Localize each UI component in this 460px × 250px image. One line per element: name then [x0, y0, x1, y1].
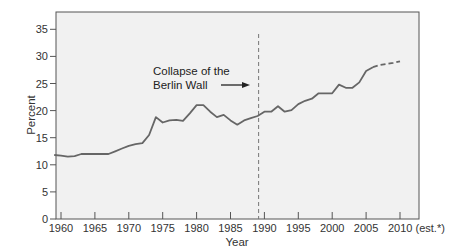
y-tick-label: 25: [36, 78, 48, 90]
y-tick-label: 10: [36, 159, 48, 171]
x-tick-label: 2000: [320, 222, 344, 234]
x-axis-title: Year: [225, 236, 248, 248]
y-tick-label: 15: [36, 132, 48, 144]
plot-area: [56, 12, 419, 219]
x-tick-label: 1990: [252, 222, 276, 234]
x-tick-label: 1980: [184, 222, 208, 234]
x-tick-label: 2010 (est.*): [388, 222, 445, 234]
y-tick-label: 0: [42, 213, 48, 225]
annotation-line2: Berlin Wall: [153, 79, 208, 91]
y-tick-label: 20: [36, 105, 48, 117]
annotation-line1: Collapse of the: [153, 65, 230, 77]
line-chart: 05101520253035 1960196519701975198019851…: [0, 0, 460, 250]
y-tick-label: 35: [36, 23, 48, 35]
y-tick-label: 30: [36, 50, 48, 62]
x-tick-label: 1985: [218, 222, 242, 234]
x-tick-label: 1975: [150, 222, 174, 234]
x-tick-label: 2005: [354, 222, 378, 234]
x-tick-label: 1970: [117, 222, 141, 234]
y-axis-title: Percent: [25, 94, 37, 134]
x-tick-label: 1960: [49, 222, 73, 234]
x-tick-label: 1965: [83, 222, 107, 234]
y-axis: 05101520253035: [36, 23, 56, 225]
x-tick-label: 1995: [286, 222, 310, 234]
y-tick-label: 5: [42, 186, 48, 198]
